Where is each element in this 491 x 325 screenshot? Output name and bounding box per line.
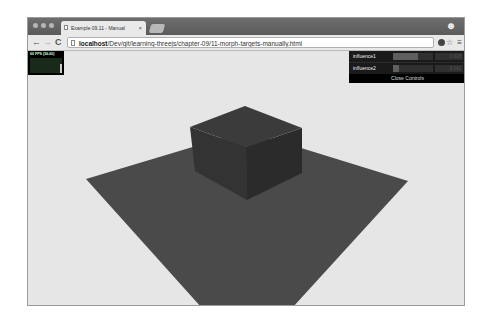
minimize-window-button[interactable] [41,23,46,28]
title-bar: Example 09.11 - Manual × ☻ [28,18,464,35]
stats-panel[interactable]: 60 FPS (56-60) [28,51,64,75]
influence2-value-input[interactable]: 0.141 [435,65,463,72]
browser-window: Example 09.11 - Manual × ☻ ← → C localho… [27,17,465,306]
slider-fill [393,65,399,72]
bookmark-star-icon[interactable]: ☆ [446,36,453,49]
maximize-window-button[interactable] [49,23,54,28]
three-scene[interactable] [28,51,465,306]
url-path: /Dev/git/learning-threejs/chapter-09/11-… [108,40,302,47]
influence1-slider[interactable] [393,53,433,60]
reload-button[interactable]: C [55,36,62,49]
page-icon [71,40,75,46]
forward-button[interactable]: → [43,36,52,49]
extension-icon[interactable] [438,39,445,46]
webgl-viewport[interactable]: 60 FPS (56-60) influence1 0.628 influenc… [28,51,464,305]
browser-toolbar: ← → C localhost/Dev/git/learning-threejs… [28,35,464,51]
page-icon [64,25,68,30]
control-label: influence1 [353,53,376,59]
address-bar[interactable]: localhost/Dev/git/learning-threejs/chapt… [67,37,434,48]
browser-tab[interactable]: Example 09.11 - Manual × [61,21,146,35]
fps-graph [30,58,62,73]
url-host: localhost [79,40,108,47]
influence1-value-input[interactable]: 0.628 [435,53,463,60]
profile-icon[interactable]: ☻ [444,19,458,33]
close-window-button[interactable] [33,23,38,28]
fps-bar [60,64,62,73]
influence2-slider[interactable] [393,65,433,72]
fps-label: 60 FPS (56-60) [28,51,64,57]
back-button[interactable]: ← [32,36,41,49]
menu-icon[interactable]: ≡ [457,36,462,49]
slider-fill [393,53,418,60]
tab-title: Example 09.11 - Manual [71,25,125,31]
control-label: influence2 [353,65,376,71]
dat-gui-panel: influence1 0.628 influence2 0.141 Close … [349,51,465,83]
tab-close-icon[interactable]: × [138,21,142,35]
close-controls-button[interactable]: Close Controls [349,74,465,83]
new-tab-button[interactable] [149,24,165,33]
control-influence1: influence1 0.628 [349,51,465,63]
